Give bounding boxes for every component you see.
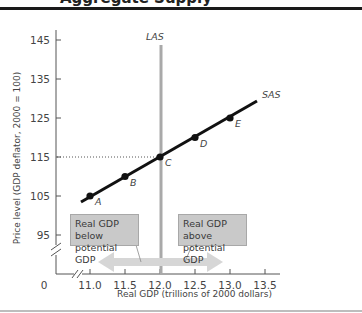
annotation-above-line2: potential GDP (183, 242, 242, 266)
data-point-b (121, 173, 128, 180)
point-label-a: A (94, 196, 102, 207)
x-tick-label: 11.0 (78, 279, 101, 291)
point-label-d: D (200, 138, 207, 149)
sas-label: SAS (262, 89, 281, 100)
data-point-e (226, 114, 233, 121)
y-tick-label: 135 (30, 73, 50, 85)
y-tick-label: 145 (30, 34, 50, 46)
y-tick-label: 125 (30, 112, 50, 124)
annotation-below-line1: Real GDP below (75, 218, 134, 242)
chart: 95105115125135145 11.011.512.012.513.013… (0, 0, 362, 313)
y-tick-label: 95 (37, 229, 50, 241)
y-tick-label: 105 (30, 190, 50, 202)
bottom-rule (0, 310, 362, 312)
annotation-below-line2: potential GDP (75, 242, 134, 266)
point-label-e: E (235, 118, 241, 129)
annotation-below-potential: Real GDP below potential GDP (70, 214, 139, 246)
data-point-c (156, 153, 163, 160)
annotation-above-potential: Real GDP above potential GDP (178, 214, 247, 246)
y-axis-title: Price level (GDP deflator, 2000 = 100) (12, 72, 22, 245)
x-axis: 11.011.512.012.513.013.5 (56, 269, 280, 291)
data-point-a (86, 192, 93, 199)
point-label-c: C (165, 157, 172, 168)
las-label: LAS (146, 31, 164, 42)
point-label-b: B (130, 177, 137, 188)
y-axis: 95105115125135145 (30, 30, 61, 274)
data-point-d (191, 134, 198, 141)
annotation-above-line1: Real GDP above (183, 218, 242, 242)
origin-label: 0 (41, 279, 48, 291)
x-axis-title: Real GDP (trillions of 2000 dollars) (117, 289, 272, 299)
y-tick-label: 115 (30, 151, 50, 163)
